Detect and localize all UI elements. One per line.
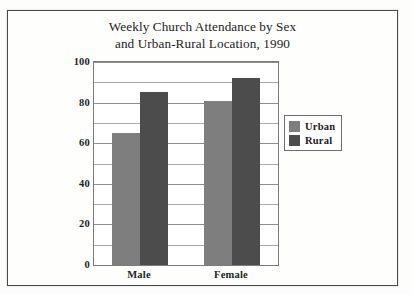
y-axis-tick-label: 40 bbox=[56, 177, 90, 188]
y-axis-tick-label: 0 bbox=[56, 259, 90, 270]
y-axis-tick-label: 80 bbox=[56, 96, 90, 107]
plot-area bbox=[93, 61, 279, 266]
y-axis-tick-label: 100 bbox=[56, 56, 90, 67]
bar-female-urban[interactable] bbox=[204, 101, 232, 265]
figure-frame: Weekly Church Attendance by Sex and Urba… bbox=[7, 10, 398, 286]
bar-male-rural[interactable] bbox=[140, 92, 168, 265]
legend-label: Rural bbox=[305, 135, 332, 146]
y-axis-tick-label: 60 bbox=[56, 137, 90, 148]
gridline-major bbox=[94, 62, 278, 63]
y-axis-tick-label: 20 bbox=[56, 218, 90, 229]
x-axis-tick-labels: MaleFemale bbox=[93, 269, 279, 289]
x-axis-tick-label-male: Male bbox=[127, 269, 151, 280]
chart-title-line-1: Weekly Church Attendance by Sex bbox=[8, 18, 397, 35]
chart-title-line-2: and Urban-Rural Location, 1990 bbox=[8, 35, 397, 52]
bar-female-rural[interactable] bbox=[232, 78, 260, 265]
legend-swatch-urban-icon bbox=[289, 121, 300, 132]
figure-page: Weekly Church Attendance by Sex and Urba… bbox=[0, 0, 412, 294]
legend-label: Urban bbox=[305, 121, 335, 132]
chart-title: Weekly Church Attendance by Sex and Urba… bbox=[8, 18, 397, 52]
bar-male-urban[interactable] bbox=[112, 133, 140, 265]
legend-swatch-rural-icon bbox=[289, 135, 300, 146]
x-axis-tick-label-female: Female bbox=[214, 269, 248, 280]
chart-legend: UrbanRural bbox=[284, 115, 342, 151]
legend-item-rural[interactable]: Rural bbox=[289, 133, 335, 147]
y-axis-tick-labels: 020406080100 bbox=[52, 61, 90, 266]
legend-item-urban[interactable]: Urban bbox=[289, 119, 335, 133]
